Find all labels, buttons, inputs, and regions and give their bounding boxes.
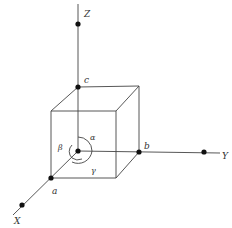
label-beta: β <box>57 143 63 152</box>
label-c: c <box>84 75 89 85</box>
angle-arc-gamma <box>72 151 92 163</box>
point-b <box>136 149 141 154</box>
cube-bottom-right-edge <box>116 152 139 178</box>
point-z <box>75 21 80 26</box>
cube-top-back-edges <box>51 86 139 111</box>
y-axis-line <box>78 151 220 153</box>
point-x <box>19 202 24 207</box>
point-c <box>75 84 80 89</box>
point-a <box>48 175 53 180</box>
label-b: b <box>144 141 150 151</box>
label-a: a <box>52 186 57 196</box>
label-gamma: γ <box>91 166 96 175</box>
origin-point <box>75 148 80 153</box>
point-y <box>201 149 206 154</box>
label-alpha: α <box>90 133 96 142</box>
label-z: Z <box>83 9 91 19</box>
unit-cell-diagram: Z Y X a b c α β γ <box>0 0 232 228</box>
label-x: X <box>13 216 21 226</box>
label-y: Y <box>222 151 229 161</box>
